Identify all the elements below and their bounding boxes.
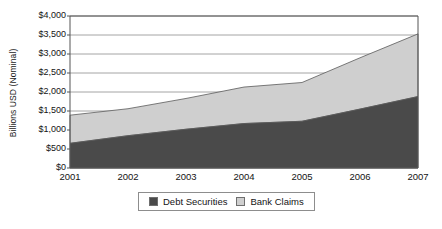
- x-axis-tick-label: 2003: [163, 172, 209, 182]
- y-axis-tick-label: $2,500: [20, 68, 66, 77]
- x-axis-tick-label: 2005: [279, 172, 325, 182]
- legend-swatch-icon: [236, 197, 245, 206]
- y-axis-tick-label: $1,500: [20, 106, 66, 115]
- y-axis-tick-label: $3,500: [20, 30, 66, 39]
- legend-item[interactable]: Bank Claims: [236, 197, 303, 207]
- y-axis-tick-label: $2,000: [20, 87, 66, 96]
- legend-item-label: Debt Securities: [163, 197, 227, 207]
- y-axis-tick-labels: $0$500$1,000$1,500$2,000$2,500$3,000$3,5…: [20, 0, 66, 229]
- x-axis-tick-label: 2004: [221, 172, 267, 182]
- legend-item-label: Bank Claims: [250, 197, 303, 207]
- y-axis-title: Billions USD (Nominal): [8, 18, 18, 168]
- x-axis-tick-label: 2007: [395, 172, 441, 182]
- y-axis-tick-label: $3,000: [20, 49, 66, 58]
- x-axis-tick-label: 2006: [337, 172, 383, 182]
- legend-item[interactable]: Debt Securities: [149, 197, 227, 207]
- x-axis-tick-label: 2002: [105, 172, 151, 182]
- legend-swatch-icon: [149, 197, 158, 206]
- x-axis-tick-label: 2001: [47, 172, 93, 182]
- y-axis-tick-label: $1,000: [20, 125, 66, 134]
- chart-legend: Debt SecuritiesBank Claims: [138, 192, 315, 211]
- y-axis-tick-label: $500: [20, 144, 66, 153]
- y-axis-tick-label: $4,000: [20, 11, 66, 20]
- area-chart: Billions USD (Nominal) $0$500$1,000$1,50…: [0, 0, 442, 229]
